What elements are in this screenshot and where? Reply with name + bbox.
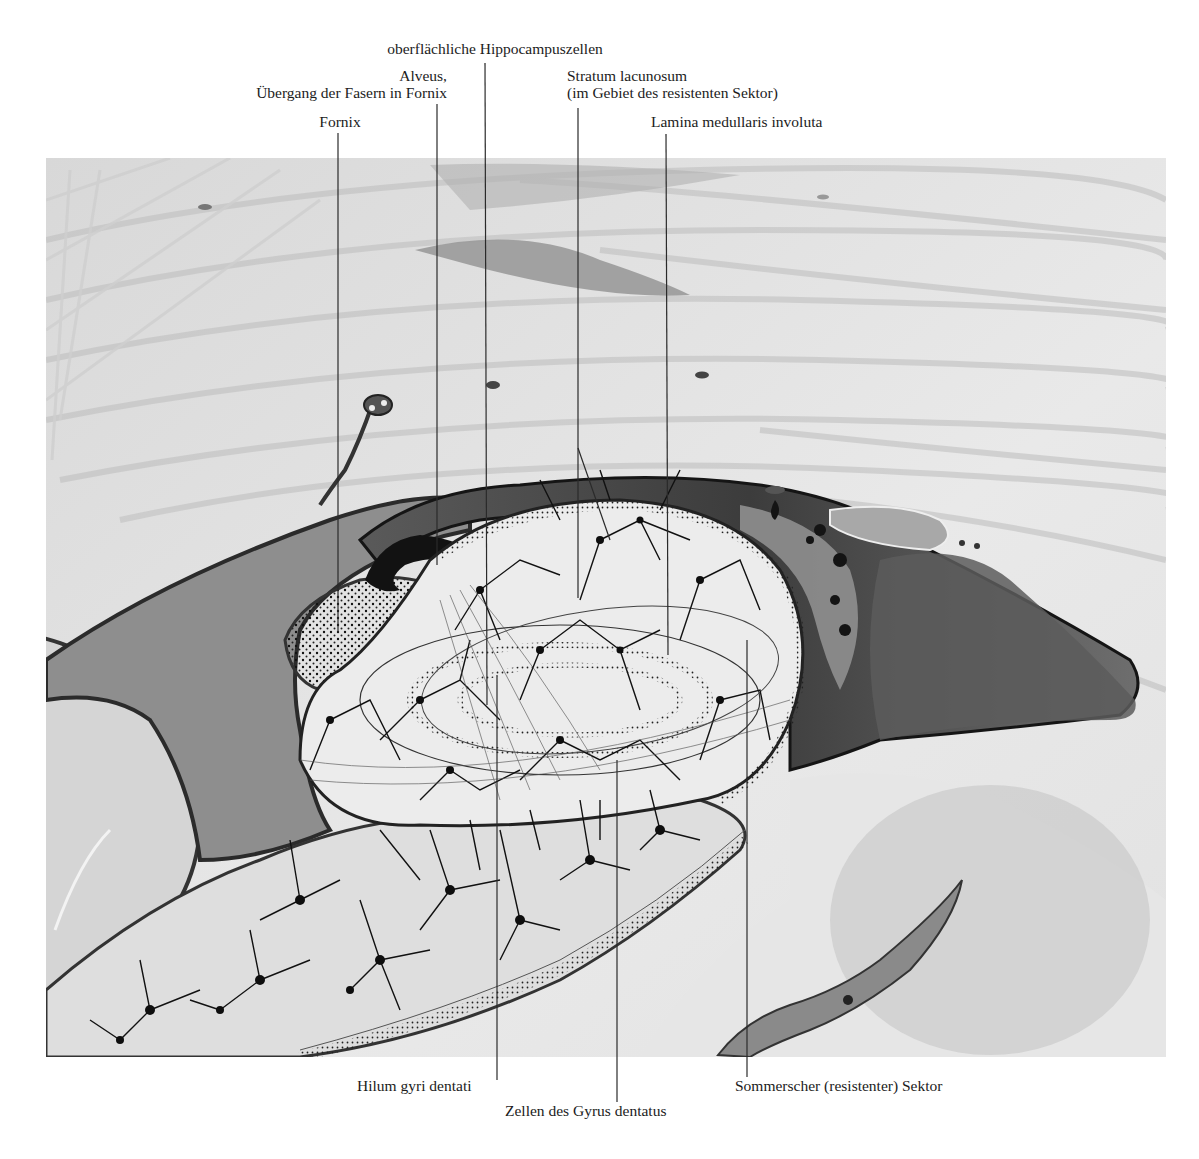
label-text: Zellen des Gyrus dentatus [505, 1102, 666, 1119]
white-matter-background [0, 158, 1190, 1057]
label-sommerscher-sektor: Sommerscher (resistenter) Sektor [735, 1077, 942, 1094]
vessel [486, 381, 500, 389]
label-text: Sommerscher (resistenter) Sektor [735, 1077, 942, 1094]
label-alveus: Alveus, Übergang der Fasern in Fornix [196, 67, 447, 101]
label-text: oberflächliche Hippocampuszellen [350, 40, 640, 57]
label-text: Alveus, [196, 67, 447, 84]
label-hilum-gyri-dentati: Hilum gyri dentati [357, 1077, 472, 1094]
illustration-canvas [0, 0, 1199, 1159]
hippocampus-illustration: oberflächliche Hippocampuszellen Alveus,… [0, 0, 1199, 1159]
label-oberflaechliche-hippocampuszellen: oberflächliche Hippocampuszellen [350, 40, 640, 57]
label-lamina-medullaris-involuta: Lamina medullaris involuta [651, 113, 822, 130]
label-text: Übergang der Fasern in Fornix [196, 84, 447, 101]
vessel [364, 395, 392, 415]
label-fornix: Fornix [300, 113, 380, 130]
label-text: Fornix [300, 113, 380, 130]
label-zellen-des-gyrus-dentatus: Zellen des Gyrus dentatus [505, 1102, 666, 1119]
gray-nucleus [830, 785, 1150, 1055]
label-text: Lamina medullaris involuta [651, 113, 822, 130]
label-stratum-lacunosum: Stratum lacunosum (im Gebiet des resiste… [567, 67, 778, 101]
label-text: (im Gebiet des resistenten Sektor) [567, 84, 778, 101]
label-text: Stratum lacunosum [567, 67, 778, 84]
label-text: Hilum gyri dentati [357, 1077, 472, 1094]
vessel [695, 372, 709, 379]
